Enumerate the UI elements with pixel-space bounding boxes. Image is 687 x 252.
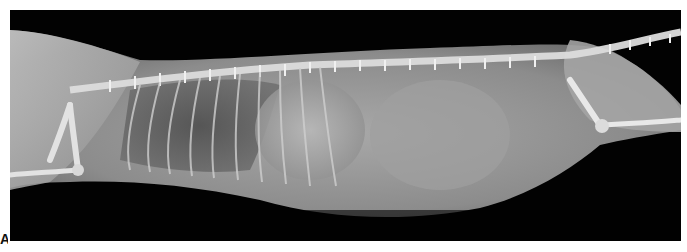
- panel-label: A: [0, 232, 8, 246]
- radiograph-panel: [10, 10, 681, 241]
- radiograph-image: [10, 10, 681, 241]
